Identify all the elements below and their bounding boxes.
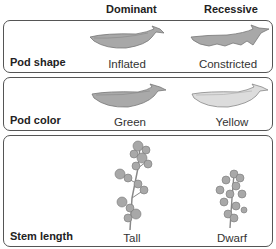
pod-color-row: Pod color Green Yellow <box>3 77 273 131</box>
dominant-caption: Green <box>114 116 146 128</box>
trait-label: Pod color <box>10 114 61 126</box>
dwarf-plant-icon <box>210 168 256 228</box>
recessive-caption: Yellow <box>216 116 249 128</box>
green-pod-icon <box>88 82 168 110</box>
yellow-pod-icon <box>188 82 270 110</box>
constricted-pod-icon <box>187 23 271 51</box>
trait-label: Pod shape <box>10 56 66 68</box>
inflated-pod-icon <box>86 23 166 51</box>
dominant-caption: Tall <box>123 232 140 244</box>
pod-shape-row: Pod shape Inflated Constricted <box>3 20 273 73</box>
tall-plant-icon <box>108 138 158 230</box>
trait-label: Stem length <box>10 230 73 242</box>
dominant-header: Dominant <box>106 3 157 15</box>
stem-length-row: Stem length Tall Dwarf <box>3 135 273 247</box>
recessive-header: Recessive <box>204 3 258 15</box>
dominant-caption: Inflated <box>108 58 146 70</box>
recessive-caption: Dwarf <box>217 232 247 244</box>
recessive-caption: Constricted <box>199 58 257 70</box>
